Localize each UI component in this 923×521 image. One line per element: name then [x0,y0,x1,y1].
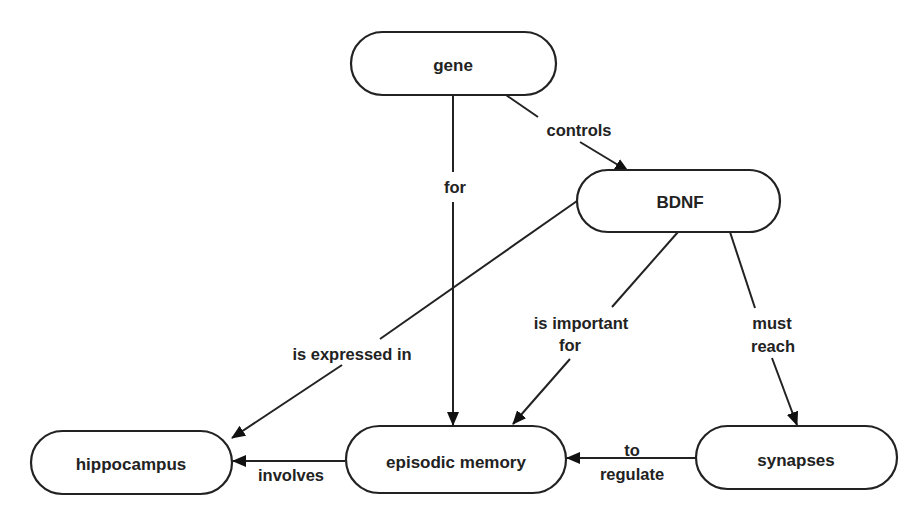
node-label: episodic memory [386,453,526,472]
node-label: BDNF [656,193,703,212]
edge-label: regulate [600,465,664,483]
edge-episodic-memory-involves-hippocampus[interactable]: involves [233,461,345,484]
edge-arrow [232,365,342,438]
edge-label: controls [546,121,611,139]
nodes: gene BDNF hippocampus episodic memory sy… [31,32,897,494]
edge-label: involves [258,466,324,484]
node-synapses[interactable]: synapses [696,426,897,489]
node-bdnf[interactable]: BDNF [577,170,780,232]
edge-line [730,232,755,308]
edge-label: reach [751,337,795,355]
concept-map: controls for is expressed in is importan… [0,0,923,521]
edge-label: to [624,441,640,459]
edge-line [612,232,678,307]
edge-arrow [772,358,797,425]
node-label: hippocampus [76,455,187,474]
node-label: synapses [757,451,835,470]
edge-gene-for-episodic-memory[interactable]: for [444,95,467,425]
node-gene[interactable]: gene [351,32,556,95]
node-label: gene [433,56,473,75]
edge-label: for [559,336,582,354]
edge-bdnf-important-for-episodic-memory[interactable]: is important for [513,232,678,424]
edge-bdnf-expressed-in-hippocampus[interactable]: is expressed in [232,201,577,438]
edge-arrow [513,359,570,424]
node-hippocampus[interactable]: hippocampus [31,431,232,494]
edge-label: must [752,314,792,332]
edge-synapses-to-regulate-episodic-memory[interactable]: to regulate [567,441,695,483]
edge-bdnf-must-reach-synapses[interactable]: must reach [730,232,797,425]
edge-arrow [580,142,628,171]
edge-line [506,95,538,117]
edge-label: is expressed in [292,345,411,363]
node-episodic-memory[interactable]: episodic memory [346,426,566,493]
edge-label: for [444,178,467,196]
edge-gene-controls-bdnf[interactable]: controls [506,95,628,171]
edge-label: is important [534,314,629,332]
